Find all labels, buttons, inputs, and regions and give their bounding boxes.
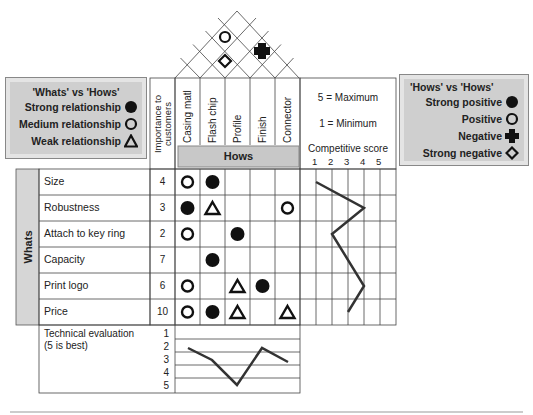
tick-label: 1: [312, 156, 317, 167]
tick-label: 4: [360, 156, 365, 167]
technical-evaluation-scale: 1 2 3 4 5: [155, 327, 169, 392]
how-label: Flash chip: [207, 97, 218, 143]
hows-label: Hows: [178, 146, 299, 167]
tick-label: 2: [328, 156, 333, 167]
importance-value: 6: [150, 280, 175, 291]
open-circle-icon: [182, 177, 193, 188]
relationship-matrix: [175, 169, 300, 325]
what-row: Print logo6: [39, 273, 175, 299]
importance-header-line: customers: [163, 94, 173, 152]
how-header: Flash chip: [200, 78, 225, 145]
scale-value: 1: [155, 327, 169, 340]
scale-value: 5: [155, 379, 169, 392]
what-label: Attach to key ring: [44, 227, 125, 239]
roof: [175, 11, 299, 78]
open-circle-icon: [182, 229, 193, 240]
open-triangle-icon: [231, 280, 245, 292]
what-label: Print logo: [44, 279, 88, 291]
tick-label: 3: [344, 156, 349, 167]
how-header: Connector: [275, 78, 300, 145]
whats-label: Whats: [16, 169, 39, 325]
filled-circle-icon: [206, 305, 220, 319]
how-label: Finish: [257, 116, 268, 143]
tech-eval-line: Technical evaluation: [44, 328, 134, 340]
scale-max: 5 = Maximum: [300, 92, 396, 103]
what-row: Size4: [39, 169, 175, 195]
importance-value: 4: [150, 176, 175, 187]
roof-open-circle-icon: [220, 32, 230, 42]
what-label: Price: [44, 305, 68, 317]
scale-value: 2: [155, 340, 169, 353]
open-circle-icon: [182, 307, 193, 318]
importance-value: 2: [150, 228, 175, 239]
scale-value: 4: [155, 366, 169, 379]
how-header: Casing matl: [175, 78, 200, 145]
importance-value: 10: [150, 306, 175, 317]
importance-value: 3: [150, 202, 175, 213]
importance-header-line: Importance to: [153, 94, 163, 152]
what-row: Capacity7: [39, 247, 175, 273]
what-row: Attach to key ring2: [39, 221, 175, 247]
how-label: Connector: [282, 97, 293, 143]
importance-header: Importance to customers: [150, 78, 175, 169]
hows-headers: Casing matl Flash chip Profile Finish Co…: [175, 78, 300, 145]
filled-circle-icon: [206, 253, 220, 267]
what-label: Capacity: [44, 253, 85, 265]
competitive-score-ticks: 1 2 3 4 5: [308, 156, 388, 168]
what-row: Price10: [39, 299, 175, 325]
filled-circle-icon: [181, 201, 195, 215]
open-triangle-icon: [281, 306, 295, 318]
tech-eval-line: (5 is best): [44, 340, 134, 352]
technical-evaluation-line: [188, 348, 288, 385]
how-header: Finish: [250, 78, 275, 145]
scale-value: 3: [155, 353, 169, 366]
how-label: Casing matl: [182, 90, 193, 143]
how-label: Profile: [232, 115, 243, 143]
open-triangle-icon: [206, 202, 220, 214]
open-circle-icon: [282, 203, 293, 214]
roof-filled-cross-icon: [254, 43, 270, 59]
whats-label-text: Whats: [22, 231, 34, 264]
what-label: Robustness: [44, 201, 99, 213]
filled-circle-icon: [231, 227, 245, 241]
how-header: Profile: [225, 78, 250, 145]
filled-circle-icon: [206, 175, 220, 189]
competitive-score-title: Competitive score: [300, 143, 396, 154]
what-row: Robustness3: [39, 195, 175, 221]
roof-open-diamond-icon: [219, 55, 231, 67]
filled-circle-icon: [256, 279, 270, 293]
technical-evaluation-label: Technical evaluation (5 is best): [44, 328, 134, 352]
what-label: Size: [44, 175, 64, 187]
tick-label: 5: [376, 156, 381, 167]
open-circle-icon: [182, 281, 193, 292]
importance-value: 7: [150, 254, 175, 265]
open-triangle-icon: [231, 306, 245, 318]
scale-min: 1 = Minimum: [300, 118, 396, 129]
